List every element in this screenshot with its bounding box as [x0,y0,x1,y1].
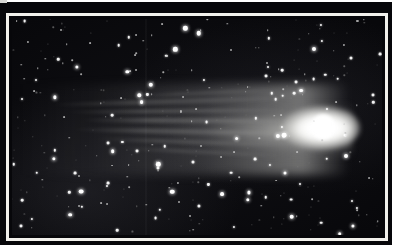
comet [12,19,382,235]
star [41,179,42,180]
star [293,92,296,95]
star [283,88,285,90]
star [248,147,249,148]
star [72,59,74,61]
star [321,139,323,141]
scan-seam [145,19,147,235]
star [230,180,231,181]
star [156,162,157,163]
star [16,21,18,23]
star [247,191,250,194]
star [280,195,281,196]
star [245,91,247,93]
star [189,215,191,217]
star [111,165,113,167]
star [299,69,300,70]
star [269,164,271,166]
star [246,115,247,116]
star [314,186,315,187]
star [276,134,280,138]
star [376,222,377,223]
star [220,192,224,196]
star [372,178,373,179]
star [136,205,137,206]
star [75,65,78,68]
star [50,19,51,20]
star [296,151,298,153]
star [238,176,240,178]
star [173,47,177,51]
star [352,224,355,227]
star [156,162,160,166]
star [267,29,269,31]
star [230,171,233,174]
star [319,24,321,26]
star [124,189,125,190]
star [304,74,306,76]
star [310,229,311,230]
star [259,138,260,139]
star [171,183,172,184]
star [348,59,349,60]
star [344,154,348,158]
photograph-keyline-border [6,13,388,241]
star [336,77,339,80]
star [20,224,23,227]
star [284,171,287,174]
star [43,152,44,153]
star [93,129,94,130]
star [266,62,268,64]
star [153,82,154,83]
star [96,155,98,157]
star [100,202,102,204]
star [296,216,298,218]
star [358,215,359,216]
star [36,172,39,175]
star [107,20,108,21]
star [197,205,200,208]
comet-tail-streamer [123,88,286,99]
star [345,132,346,133]
star [129,70,131,72]
star [140,100,144,104]
star [104,101,105,102]
star [69,213,73,217]
star [356,20,358,22]
star [126,70,129,73]
star [302,94,304,96]
star [147,49,148,50]
star [168,187,169,188]
star [13,150,14,151]
star [127,176,129,178]
star [13,163,15,165]
star [198,182,199,183]
star [283,218,284,219]
star [101,90,102,91]
star [366,214,367,215]
star [371,93,374,96]
star [21,64,23,66]
star [24,213,25,214]
star [78,175,80,177]
star [178,201,180,203]
star [312,78,315,81]
star [320,28,321,29]
star [154,216,157,219]
comet-tail-spread [19,84,352,175]
star [106,185,108,187]
star [21,199,24,202]
star [33,90,35,92]
star [167,115,168,116]
star [74,172,77,175]
star [299,183,301,185]
star [220,128,221,129]
star-field [12,19,382,235]
star [268,81,269,82]
star [259,219,260,220]
star [142,40,144,42]
star [271,228,272,229]
star [161,23,163,25]
star [152,144,153,145]
star [141,100,142,101]
star [273,115,275,117]
